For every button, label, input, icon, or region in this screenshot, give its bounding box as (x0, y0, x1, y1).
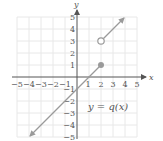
svg-text:1: 1 (70, 61, 75, 70)
svg-text:−4: −4 (23, 80, 35, 89)
function-label: y = q(x) (87, 101, 128, 112)
upper-piece-line (104, 18, 125, 39)
x-axis-label: x (149, 73, 154, 82)
svg-text:−4: −4 (63, 121, 75, 130)
svg-text:−5: −5 (63, 133, 75, 141)
svg-text:−3: −3 (63, 109, 75, 118)
svg-text:3: 3 (110, 80, 115, 89)
svg-text:4: 4 (122, 80, 127, 89)
svg-text:2: 2 (98, 80, 103, 89)
svg-text:5: 5 (134, 80, 139, 89)
svg-text:−5: −5 (11, 80, 23, 89)
svg-text:3: 3 (70, 37, 75, 46)
svg-text:1: 1 (85, 80, 90, 89)
x-tick-labels: −5 −4 −3 −2 −1 1 2 3 4 5 (11, 80, 139, 89)
open-circle-marker (98, 38, 104, 44)
svg-text:4: 4 (70, 25, 75, 34)
svg-text:−2: −2 (47, 80, 59, 89)
closed-dot-marker (98, 62, 104, 68)
piecewise-graph: x y −5 −4 −3 −2 −1 1 2 3 4 5 5 4 3 2 1 −… (0, 0, 163, 141)
svg-text:2: 2 (70, 49, 75, 58)
y-axis-label: y (73, 0, 79, 9)
svg-text:−3: −3 (35, 80, 47, 89)
svg-text:5: 5 (70, 13, 75, 22)
